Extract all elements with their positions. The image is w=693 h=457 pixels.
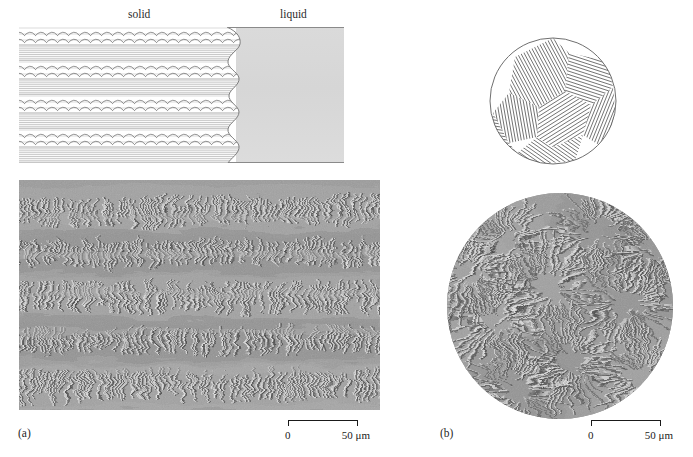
dendrite-linework <box>19 27 344 163</box>
figure-root: solid liquid <box>0 0 693 457</box>
micrograph-equiaxed <box>447 193 673 419</box>
scalebar-a-end-label: 50 μm <box>342 429 370 441</box>
scalebar-b-line <box>591 420 661 426</box>
scalebar-a-start-label: 0 <box>285 429 291 441</box>
schematic-equiaxed-grains <box>487 35 619 167</box>
scalebar-a: 0 50 μm <box>288 420 358 446</box>
panel-label-b: (b) <box>440 427 453 439</box>
panel-label-a: (a) <box>18 427 31 439</box>
solid-region-label: solid <box>128 9 150 21</box>
scalebar-b-start-label: 0 <box>588 429 594 441</box>
scalebar-b: 0 50 μm <box>591 420 661 446</box>
schematic-columnar-dendrites <box>19 27 344 163</box>
scalebar-b-end-label: 50 μm <box>645 429 673 441</box>
micrograph-columnar <box>19 180 380 410</box>
scalebar-a-line <box>288 420 358 426</box>
liquid-region-label: liquid <box>280 9 307 21</box>
